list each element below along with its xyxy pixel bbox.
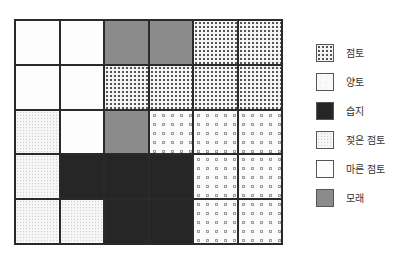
legend: 점토 양토 습지 젖은 점토 마른 점토 모래 [316, 38, 385, 212]
grid-cell-dry [61, 66, 104, 109]
grid-cell-wet [16, 155, 59, 198]
wet-clay-swatch-icon [316, 131, 334, 149]
grid-cell-wet [16, 200, 59, 243]
grid-cell-clay [194, 21, 237, 64]
grid-cell-sand [150, 21, 193, 64]
legend-item-clay: 점토 [316, 38, 385, 67]
grid-cell-dry [16, 21, 59, 64]
legend-item-marsh: 습지 [316, 96, 385, 125]
legend-item-wet-clay: 젖은 점토 [316, 125, 385, 154]
grid-cell-clay [239, 21, 282, 64]
sand-swatch-icon [316, 189, 334, 207]
loam-swatch-icon [316, 73, 334, 91]
grid-cell-marsh [105, 200, 148, 243]
legend-item-loam: 양토 [316, 67, 385, 96]
grid-cell-sand [105, 111, 148, 154]
grid-cell-dry [16, 66, 59, 109]
grid-cell-wet [61, 200, 104, 243]
legend-label: 마른 점토 [346, 161, 385, 176]
legend-label: 양토 [346, 74, 364, 89]
grid-cell-marsh [150, 200, 193, 243]
grid-cell-clay [150, 66, 193, 109]
grid-cell-dry [61, 21, 104, 64]
grid-cell-marsh [61, 155, 104, 198]
legend-label: 모래 [346, 190, 364, 205]
grid-cell-loam [239, 200, 282, 243]
dry-clay-swatch-icon [316, 160, 334, 178]
legend-item-sand: 모래 [316, 183, 385, 212]
marsh-swatch-icon [316, 102, 334, 120]
grid-cell-loam [194, 200, 237, 243]
soil-grid [14, 19, 283, 245]
clay-swatch-icon [316, 44, 334, 62]
grid-cell-loam [194, 155, 237, 198]
grid-cell-dry [61, 111, 104, 154]
grid-cell-loam [239, 155, 282, 198]
grid-cell-marsh [105, 155, 148, 198]
legend-label: 점토 [346, 45, 364, 60]
grid-cell-wet [16, 111, 59, 154]
legend-label: 젖은 점토 [346, 132, 385, 147]
grid-cell-marsh [150, 155, 193, 198]
grid-cell-clay [194, 66, 237, 109]
grid-cell-clay [239, 66, 282, 109]
grid-cell-clay [105, 66, 148, 109]
legend-item-dry-clay: 마른 점토 [316, 154, 385, 183]
grid-cell-loam [194, 111, 237, 154]
legend-label: 습지 [346, 103, 364, 118]
grid-cell-loam [239, 111, 282, 154]
grid-cell-loam [150, 111, 193, 154]
grid-cell-sand [105, 21, 148, 64]
